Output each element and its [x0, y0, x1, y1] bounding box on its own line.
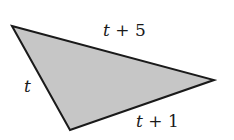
triangle-diagram: t + 5 t t + 1: [0, 0, 234, 140]
side-label-top-variable: t: [103, 20, 110, 40]
side-label-top-constant: 5: [135, 20, 146, 40]
side-label-left: t: [24, 78, 31, 95]
side-label-left-variable: t: [24, 76, 31, 96]
side-label-top-operator: +: [115, 20, 129, 40]
side-label-top: t + 5: [103, 22, 146, 39]
side-label-bottom: t + 1: [136, 113, 179, 130]
side-label-bottom-constant: 1: [168, 111, 179, 131]
side-label-bottom-operator: +: [148, 111, 162, 131]
side-label-bottom-variable: t: [136, 111, 143, 131]
